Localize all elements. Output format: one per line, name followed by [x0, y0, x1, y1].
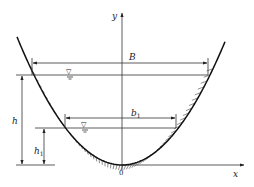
origin-label: 0 — [119, 169, 123, 177]
svg-text:▽: ▽ — [66, 68, 72, 76]
hatch-mark — [116, 165, 117, 170]
channel-boundary-parabola — [17, 37, 225, 165]
lower-width-label: b1 — [131, 108, 141, 119]
y-axis-label: y — [111, 11, 118, 21]
top-width-label: B — [128, 52, 136, 62]
depth-label: h — [12, 116, 18, 126]
svg-text:▽: ▽ — [81, 121, 87, 129]
lower-depth-label: h1 — [34, 146, 44, 157]
upper-water-surface-symbol: ▽ — [66, 68, 73, 80]
lower-water-surface-symbol: ▽ — [81, 121, 88, 133]
parabolic-channel-diagram: y x 0 ▽ B ▽ b1 h h1 — [0, 0, 254, 187]
x-axis-label: x — [233, 169, 238, 179]
